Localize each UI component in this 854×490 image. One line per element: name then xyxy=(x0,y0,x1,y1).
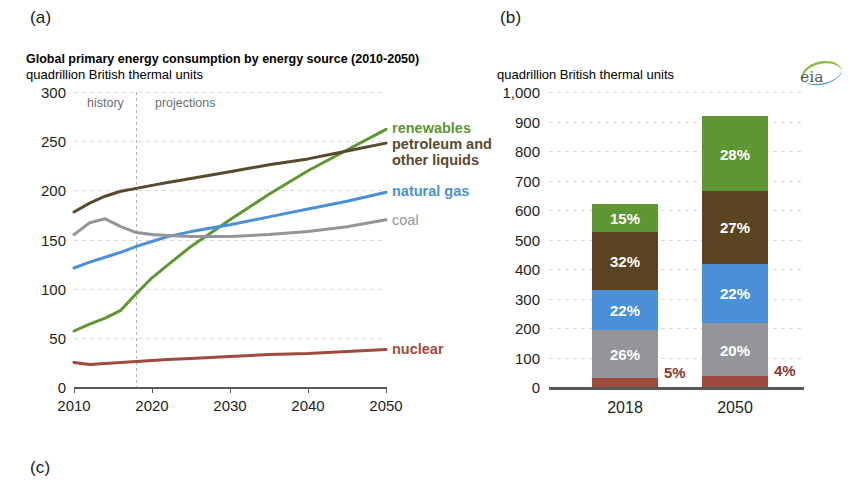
chart-b-ytick-label: 600 xyxy=(497,202,540,219)
chart-b-ytick-label: 100 xyxy=(497,349,540,366)
series-line-renewables xyxy=(74,129,386,331)
chart-a-subtitle: quadrillion British thermal units xyxy=(26,67,476,83)
series-label-other-liquids: other liquids xyxy=(392,152,479,168)
panel-label-b: (b) xyxy=(500,8,521,28)
stacked-bar-2050: 4%20%22%27%28% xyxy=(702,92,768,387)
panel-label-c: (c) xyxy=(30,458,50,478)
bar-segment-nuclear xyxy=(702,376,768,387)
series-label-natural-gas: natural gas xyxy=(392,183,469,199)
bar-percent-label: 28% xyxy=(702,145,768,162)
chart-b-ytick-label: 0 xyxy=(497,379,540,396)
chart-b-ytick-label: 200 xyxy=(497,320,540,337)
bar-percent-label: 20% xyxy=(702,341,768,358)
eia-logo: eia xyxy=(797,58,843,88)
bar-percent-label: 27% xyxy=(702,219,768,236)
bar-percent-label: 22% xyxy=(592,302,658,319)
panel-label-a: (a) xyxy=(30,8,51,28)
series-label-nuclear: nuclear xyxy=(392,341,444,357)
bar-percent-label: 5% xyxy=(664,363,686,380)
series-line-natural-gas xyxy=(74,192,386,268)
bar-percent-label: 22% xyxy=(702,285,768,302)
chart-b-subtitle: quadrillion British thermal units xyxy=(497,67,847,83)
bar-segment-nuclear xyxy=(592,378,658,387)
bar-chart-panel-b: quadrillion British thermal units 1,0009… xyxy=(497,52,847,432)
series-label-petroleum-and: petroleum and xyxy=(392,136,492,152)
bar-percent-label: 32% xyxy=(592,253,658,270)
chart-b-ytick-label: 1,000 xyxy=(497,84,540,101)
series-line-nuclear xyxy=(74,350,386,365)
series-label-coal: coal xyxy=(392,212,419,228)
chart-b-ytick-label: 500 xyxy=(497,231,540,248)
bar-percent-label: 26% xyxy=(592,346,658,363)
svg-text:eia: eia xyxy=(800,68,823,86)
chart-b-ytick-label: 400 xyxy=(497,261,540,278)
chart-a-plot-area: 30025020015010050020102020203020402050hi… xyxy=(26,86,476,415)
chart-b-ytick-label: 700 xyxy=(497,172,540,189)
line-chart-panel-a: Global primary energy consumption by ene… xyxy=(26,52,476,432)
chart-b-ytick-label: 300 xyxy=(497,290,540,307)
series-label-renewables: renewables xyxy=(392,120,471,136)
bar-percent-label: 15% xyxy=(592,210,658,227)
chart-a-title: Global primary energy consumption by ene… xyxy=(26,52,476,67)
stacked-bar-2018: 5%26%22%32%15% xyxy=(592,92,658,387)
bar-category-label-2018: 2018 xyxy=(607,399,643,417)
chart-b-ytick-label: 800 xyxy=(497,143,540,160)
bar-percent-label: 4% xyxy=(774,362,796,379)
chart-b-ytick-label: 900 xyxy=(497,113,540,130)
bar-category-label-2050: 2050 xyxy=(717,399,753,417)
chart-b-plot-area: 1,00090080070060050040030020010005%26%22… xyxy=(497,86,847,415)
chart-b-x-axis xyxy=(549,387,804,390)
